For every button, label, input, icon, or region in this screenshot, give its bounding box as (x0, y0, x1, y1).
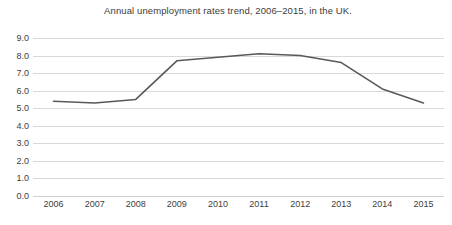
y-axis-tick-label: 5.0 (0, 104, 29, 113)
gridline (33, 196, 444, 197)
y-axis-tick-label: 6.0 (0, 87, 29, 96)
x-axis-tick-label: 2014 (360, 199, 404, 210)
chart-title: Annual unemployment rates trend, 2006–20… (96, 4, 360, 17)
x-axis-tick-label: 2006 (32, 199, 76, 210)
y-axis-tick-label: 8.0 (0, 52, 29, 61)
x-axis-tick-label: 2011 (237, 199, 281, 210)
x-axis-tick-label: 2012 (278, 199, 322, 210)
x-axis-tick-label: 2007 (73, 199, 117, 210)
y-axis-tick-label: 3.0 (0, 139, 29, 148)
line-chart: Annual unemployment rates trend, 2006–20… (0, 0, 452, 225)
x-axis-tick-label: 2008 (114, 199, 158, 210)
y-axis-tick-label: 4.0 (0, 122, 29, 131)
y-axis-tick-label: 7.0 (0, 69, 29, 78)
x-axis-tick-label: 2010 (196, 199, 240, 210)
plot-area (33, 38, 444, 196)
y-axis-tick-label: 1.0 (0, 174, 29, 183)
x-axis-tick-label: 2015 (401, 199, 445, 210)
y-axis-tick-label: 2.0 (0, 157, 29, 166)
y-axis-tick-label: 9.0 (0, 34, 29, 43)
series-line (33, 38, 444, 196)
x-axis-tick-label: 2013 (319, 199, 363, 210)
x-axis-tick-label: 2009 (155, 199, 199, 210)
x-axis: 2006200720082009201020112012201320142015 (33, 199, 444, 215)
y-axis: 9.08.07.06.05.04.03.02.01.00.0 (0, 38, 29, 196)
y-axis-tick-label: 0.0 (0, 192, 29, 201)
